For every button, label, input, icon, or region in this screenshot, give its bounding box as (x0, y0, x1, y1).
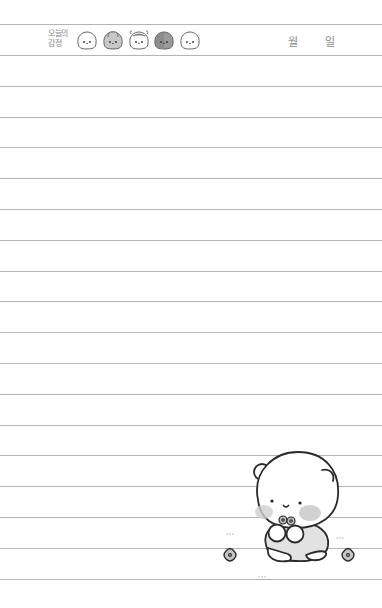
writing-line[interactable] (0, 337, 382, 359)
writing-line[interactable] (0, 368, 382, 390)
ruled-line (0, 86, 382, 87)
emotion-surprised[interactable] (128, 30, 150, 51)
writing-line[interactable] (0, 183, 382, 205)
writing-line[interactable] (0, 214, 382, 236)
ruled-line (0, 55, 382, 56)
emotion-sad[interactable] (102, 30, 124, 51)
ruled-line (0, 271, 382, 272)
bear-face-sad-icon (102, 30, 124, 51)
ruled-line (0, 425, 382, 426)
ruled-line (0, 332, 382, 333)
bear-face-angry-icon (153, 30, 175, 51)
bear-face-surprised-icon (128, 30, 150, 51)
bear-illustration (215, 440, 382, 590)
label-line-2: 감정 (48, 39, 68, 49)
bear-face-calm-icon (179, 30, 201, 51)
emotion-happy[interactable] (76, 30, 98, 51)
writing-line[interactable] (0, 245, 382, 267)
ruled-line (0, 394, 382, 395)
bear-face-happy-icon (76, 30, 98, 51)
ruled-line (0, 209, 382, 210)
ruled-line (0, 363, 382, 364)
ruled-line (0, 147, 382, 148)
day-label: 일 (325, 33, 335, 49)
month-input[interactable] (248, 30, 288, 50)
label-line-1: 오늘의 (48, 29, 68, 39)
writing-line[interactable] (0, 91, 382, 113)
ruled-line (0, 178, 382, 179)
writing-line[interactable] (0, 399, 382, 421)
writing-line[interactable] (0, 122, 382, 144)
todays-emotion-label: 오늘의 감정 (48, 29, 68, 48)
writing-line[interactable] (0, 152, 382, 174)
writing-line[interactable] (0, 60, 382, 82)
top-rule (0, 24, 382, 25)
writing-line[interactable] (0, 276, 382, 298)
ruled-line (0, 117, 382, 118)
emotion-angry[interactable] (153, 30, 175, 51)
month-label: 월 (288, 33, 298, 49)
memo-page: 오늘의 감정 월 일 (0, 0, 382, 608)
writing-line[interactable] (0, 306, 382, 328)
emotion-calm[interactable] (179, 30, 201, 51)
ruled-line (0, 301, 382, 302)
ruled-line (0, 240, 382, 241)
